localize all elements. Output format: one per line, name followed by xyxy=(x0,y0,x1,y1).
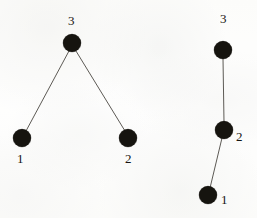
right-node-1 xyxy=(199,186,217,204)
left-edge-3-2 xyxy=(76,51,125,131)
graph-edges-layer xyxy=(0,0,257,218)
graph-figure: 312321 xyxy=(0,0,257,218)
edge-group xyxy=(26,51,224,188)
right-node-3 xyxy=(214,41,232,59)
right-edge-3-2 xyxy=(223,58,224,122)
left-node-2-label: 2 xyxy=(125,152,132,165)
left-node-2 xyxy=(119,129,137,147)
right-node-2-label: 2 xyxy=(236,130,243,143)
right-node-3-label: 3 xyxy=(220,12,227,25)
left-edge-3-1 xyxy=(26,51,69,131)
right-node-1-label: 1 xyxy=(221,193,228,206)
right-edge-2-1 xyxy=(210,138,222,188)
left-node-3 xyxy=(63,34,81,52)
left-node-1-label: 1 xyxy=(17,152,24,165)
left-node-1 xyxy=(13,129,31,147)
left-node-3-label: 3 xyxy=(68,14,75,27)
right-node-2 xyxy=(215,121,233,139)
